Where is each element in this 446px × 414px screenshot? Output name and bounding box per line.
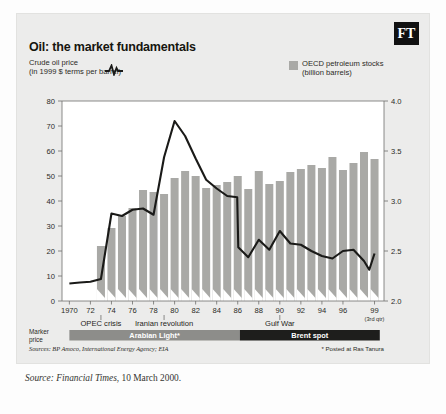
right-tick-label: 2.0 bbox=[391, 297, 402, 306]
x-tick-label: 88 bbox=[255, 306, 263, 315]
marker-price-label-line2: price bbox=[29, 336, 43, 344]
bar bbox=[139, 190, 147, 301]
x-tick-sublabel: (3rd qtr) bbox=[365, 316, 385, 322]
bar bbox=[171, 178, 179, 301]
screenshot-root: FT Oil: the market fundamentals Crude oi… bbox=[0, 0, 446, 414]
left-tick-label: 60 bbox=[47, 147, 55, 156]
bar bbox=[223, 182, 231, 301]
marker-price-label-line1: Marker bbox=[29, 328, 50, 335]
bar bbox=[328, 157, 336, 301]
right-tick-label: 3.5 bbox=[391, 147, 402, 156]
x-tick-label: 94 bbox=[318, 306, 326, 315]
bar bbox=[360, 152, 368, 301]
plot-area: 807060504030201004.03.53.02.52.019707274… bbox=[17, 14, 429, 363]
bar bbox=[192, 176, 200, 301]
x-tick-label: 90 bbox=[276, 306, 284, 315]
sources-label: Sources: BP Amoco, International Energy … bbox=[29, 345, 168, 352]
bar bbox=[255, 171, 263, 301]
x-tick-label: 72 bbox=[86, 306, 94, 315]
bar bbox=[244, 189, 252, 301]
left-tick-label: 40 bbox=[47, 197, 55, 206]
marker-price-band-label: Brent spot bbox=[291, 331, 328, 340]
bar bbox=[349, 163, 357, 301]
left-tick-label: 50 bbox=[47, 172, 55, 181]
bar bbox=[307, 165, 315, 301]
bar bbox=[297, 169, 305, 301]
left-tick-label: 30 bbox=[47, 222, 55, 231]
bar bbox=[150, 192, 158, 301]
left-tick-label: 0 bbox=[51, 297, 55, 306]
chart-card: FT Oil: the market fundamentals Crude oi… bbox=[17, 14, 429, 363]
bar bbox=[265, 184, 273, 301]
bar bbox=[339, 170, 347, 301]
event-label: Gulf War bbox=[265, 319, 295, 328]
x-tick-label: 78 bbox=[149, 306, 157, 315]
figure-caption: Source: Financial Times, 10 March 2000. bbox=[25, 373, 181, 383]
bar bbox=[202, 188, 210, 301]
bar bbox=[129, 208, 137, 301]
event-label: OPEC crisis bbox=[80, 319, 121, 328]
caption-prefix: Source: bbox=[25, 373, 54, 383]
bar bbox=[107, 228, 115, 301]
left-tick-label: 80 bbox=[47, 97, 55, 106]
x-tick-label: 82 bbox=[191, 306, 199, 315]
right-tick-label: 3.0 bbox=[391, 197, 402, 206]
bar bbox=[181, 171, 189, 301]
caption-date: , 10 March 2000. bbox=[117, 373, 181, 383]
x-tick-label: 92 bbox=[297, 306, 305, 315]
x-tick-label: 80 bbox=[170, 306, 178, 315]
x-tick-label: 84 bbox=[212, 306, 220, 315]
x-tick-label: 86 bbox=[234, 306, 242, 315]
bar bbox=[160, 194, 168, 301]
caption-publication: Financial Times bbox=[56, 373, 117, 383]
footnote-ras-tanura: * Posted at Ras Tanura bbox=[321, 345, 384, 352]
chart-svg: 807060504030201004.03.53.02.52.019707274… bbox=[17, 14, 429, 363]
x-tick-label: 99 bbox=[370, 306, 378, 315]
bar bbox=[213, 185, 221, 301]
x-tick-label: 76 bbox=[128, 306, 136, 315]
bar bbox=[276, 181, 284, 301]
bar bbox=[286, 172, 294, 301]
event-label: Iranian revolution bbox=[135, 319, 193, 328]
bar bbox=[318, 168, 326, 301]
x-tick-label: 1970 bbox=[61, 306, 78, 315]
bar bbox=[371, 159, 379, 301]
right-tick-label: 4.0 bbox=[391, 97, 402, 106]
bar bbox=[118, 216, 126, 301]
right-tick-label: 2.5 bbox=[391, 247, 402, 256]
left-tick-label: 10 bbox=[47, 272, 55, 281]
x-tick-label: 74 bbox=[107, 306, 115, 315]
marker-price-band-label: Arabian Light* bbox=[129, 331, 180, 340]
x-tick-label: 96 bbox=[339, 306, 347, 315]
left-tick-label: 20 bbox=[47, 247, 55, 256]
left-tick-label: 70 bbox=[47, 122, 55, 131]
